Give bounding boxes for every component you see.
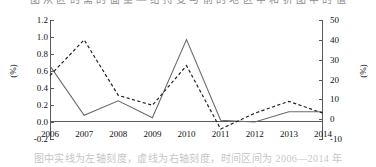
right-tick-label: 10 <box>330 95 339 104</box>
left-tick-mark <box>50 139 54 140</box>
right-tick-label: 0 <box>330 115 335 124</box>
left-tick-label: 0.0 <box>37 118 48 127</box>
left-axis-title: (%) <box>8 64 18 78</box>
plot-area <box>50 20 323 139</box>
right-tick-label: 30 <box>330 56 339 65</box>
left-tick-label: 1.2 <box>37 16 48 25</box>
right-tick-label: 40 <box>330 36 339 45</box>
right-tick-label: 50 <box>330 16 339 25</box>
left-tick-label: 1.0 <box>37 33 48 42</box>
series-line-dashed <box>50 40 323 129</box>
left-tick-label: 0.6 <box>37 67 48 76</box>
right-axis-title: (%) <box>358 64 368 78</box>
chart-figure: 图 从 区 的 需 的 面 量 — 给 持 变 与 前 的 地 区 中 和 折 … <box>0 0 376 167</box>
left-tick-label: 0.2 <box>37 101 48 110</box>
left-tick-label: 0.4 <box>37 84 48 93</box>
right-tick-label: 20 <box>330 76 339 85</box>
caption-text-bottom: 图中实线为左轴刻度，虚线为右轴刻度，时间区间为 2006—2014 年 <box>0 152 376 166</box>
caption-text-top: 图 从 区 的 需 的 面 量 — 给 持 变 与 前 的 地 区 中 和 折 … <box>0 0 376 6</box>
right-tick-mark <box>319 139 323 140</box>
left-tick-label: 0.8 <box>37 50 48 59</box>
